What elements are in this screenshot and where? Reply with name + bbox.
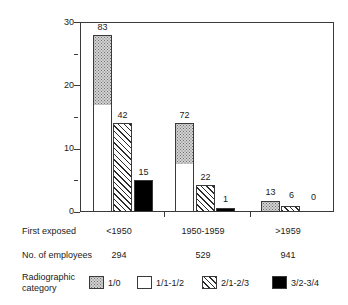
bar-label-42: 42 (107, 110, 138, 120)
legend-label-3-2-3-4: 3/2-3/4 (291, 278, 319, 288)
bar-label-83: 83 (87, 22, 118, 32)
y-tick-label-20: 20 (48, 80, 74, 90)
y-tick-label-10: 10 (48, 143, 74, 153)
legend-swatch-3-2-3-4 (272, 276, 287, 289)
legend-label-2-1-2-3: 2/1-2/3 (221, 278, 249, 288)
first-exposed-value-1: <1950 (89, 226, 149, 236)
y-tick-minor-5 (74, 180, 78, 181)
legend-label-1-1-1-2: 1/1-1/2 (156, 278, 184, 288)
first-exposed-value-2: 1950-1959 (168, 226, 238, 236)
legend-title-line1: Radiographic (22, 272, 75, 283)
y-tick-label-0: 0 (48, 206, 74, 216)
bar-group3-6[interactable] (281, 206, 300, 212)
legend-swatch-1-1-1-2 (137, 276, 152, 289)
bar-label-0: 0 (298, 192, 329, 202)
bar-group3-13[interactable] (261, 201, 280, 212)
y-tick-minor-25 (74, 54, 78, 55)
employees-value-2: 529 (168, 250, 238, 260)
employees-value-3: 941 (258, 250, 318, 260)
bar-label-72: 72 (169, 110, 200, 120)
employees-label: No. of employees (22, 250, 92, 260)
bar-group2-72[interactable] (175, 123, 194, 212)
bar-group1-15[interactable] (134, 180, 153, 212)
x-tick-group-sep-1 (164, 212, 165, 217)
first-exposed-value-3: >1959 (258, 226, 318, 236)
employees-value-1: 294 (89, 250, 149, 260)
bar-label-22: 22 (190, 172, 221, 182)
legend-label-1-0: 1/0 (108, 278, 121, 288)
bar-group2-1[interactable] (216, 208, 235, 212)
chart-root: Percentage with asbestosis 30 20 10 0 83… (0, 0, 348, 305)
bar-seg-1-1-1-2 (94, 105, 111, 211)
bar-label-15: 15 (128, 167, 159, 177)
y-tick-label-30: 30 (48, 17, 74, 27)
first-exposed-label: First exposed (22, 226, 76, 236)
bar-seg-1-1-1-2 (176, 164, 193, 211)
bar-group1-83[interactable] (93, 35, 112, 212)
y-tick-minor-15 (74, 117, 78, 118)
legend-title-line2: category (22, 283, 75, 294)
legend-title: Radiographic category (22, 272, 75, 294)
x-tick-group-sep-2 (250, 212, 251, 217)
bar-seg-1-0 (94, 36, 111, 106)
bar-label-1: 1 (210, 194, 241, 204)
legend-swatch-2-1-2-3 (202, 276, 217, 289)
bar-seg-1-0 (176, 124, 193, 163)
legend-swatch-1-0 (89, 276, 104, 289)
y-tick-0 (74, 212, 80, 213)
